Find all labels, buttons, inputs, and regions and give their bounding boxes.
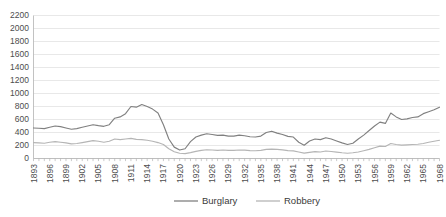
legend-label-burglary: Burglary — [202, 195, 238, 206]
x-tick-label: 1962 — [402, 164, 412, 183]
x-tick-label: 1905 — [93, 164, 103, 183]
x-tick-label: 1902 — [77, 164, 87, 183]
axis-lines — [34, 16, 440, 159]
series-line-burglary — [34, 105, 440, 151]
x-tick-label: 1908 — [110, 164, 120, 183]
x-tick-label: 1968 — [435, 164, 445, 183]
x-tick-label: 1917 — [158, 164, 168, 183]
x-tick-label: 1926 — [207, 164, 217, 183]
y-tick-label: 800 — [15, 101, 29, 111]
y-tick-label: 200 — [15, 140, 29, 150]
x-tick-label: 1965 — [418, 164, 428, 183]
x-tick-label: 1950 — [337, 164, 347, 183]
y-tick-label: 1000 — [10, 88, 29, 98]
y-tick-label: 1400 — [10, 62, 29, 72]
x-tick-label: 1911 — [126, 164, 136, 183]
y-tick-label: 2200 — [10, 10, 29, 20]
x-tick-label: 1923 — [191, 164, 201, 183]
x-tick-label: 1893 — [29, 164, 39, 183]
x-tick-label: 1938 — [272, 164, 282, 183]
y-tick-label: 1200 — [10, 75, 29, 85]
x-tick-label: 1929 — [223, 164, 233, 183]
x-tick-label: 1947 — [321, 164, 331, 183]
x-tick-label: 1920 — [175, 164, 185, 183]
gridlines — [34, 16, 440, 159]
data-series — [34, 105, 440, 154]
x-axis-tick-labels: 1893189618991902190519081911191419171920… — [29, 164, 445, 183]
y-tick-label: 2000 — [10, 23, 29, 33]
y-tick-label: 0 — [24, 153, 29, 163]
series-line-robbery — [34, 138, 440, 153]
y-axis-tick-labels: 0200400600800100012001400160018002000220… — [10, 10, 29, 163]
x-tick-label: 1914 — [142, 164, 152, 183]
x-tick-label: 1944 — [305, 164, 315, 183]
x-tick-label: 1896 — [45, 164, 55, 183]
y-tick-label: 1800 — [10, 36, 29, 46]
x-tick-label: 1932 — [240, 164, 250, 183]
crime-rate-line-chart: 0200400600800100012001400160018002000220… — [0, 0, 446, 217]
y-tick-label: 1600 — [10, 49, 29, 59]
chart-canvas: 0200400600800100012001400160018002000220… — [0, 0, 446, 217]
y-tick-label: 400 — [15, 127, 29, 137]
y-tick-label: 600 — [15, 114, 29, 124]
x-tick-label: 1959 — [386, 164, 396, 183]
x-tick-label: 1956 — [370, 164, 380, 183]
chart-legend: BurglaryRobbery — [174, 195, 320, 206]
x-tick-label: 1941 — [288, 164, 298, 183]
x-tick-label: 1935 — [256, 164, 266, 183]
x-tick-label: 1899 — [61, 164, 71, 183]
legend-label-robbery: Robbery — [284, 195, 320, 206]
x-tick-label: 1953 — [353, 164, 363, 183]
